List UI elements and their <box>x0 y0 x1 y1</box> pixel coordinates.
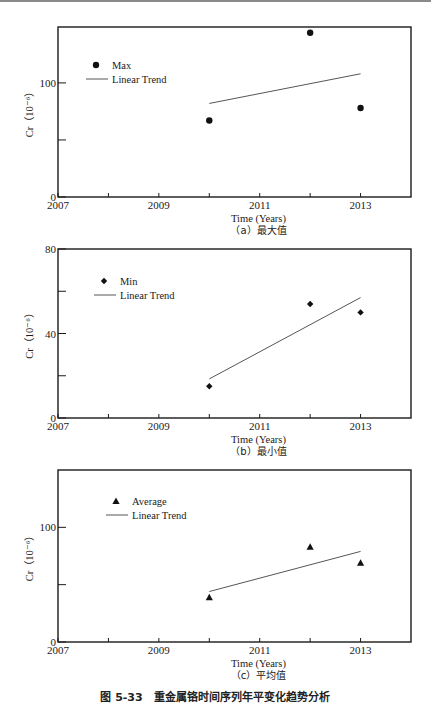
data-point-circle <box>206 117 212 123</box>
legend-label-trend: Linear Trend <box>120 290 175 301</box>
figure-canvas: 20072009201120130100Time (Years)Cr（10⁻⁶）… <box>0 0 431 703</box>
data-point-diamond <box>307 301 313 307</box>
legend: MinLinear Trend <box>94 276 175 301</box>
legend-marker-triangle-icon <box>112 497 119 503</box>
chart-panel-a: 20072009201120130100Time (Years)Cr（10⁻⁶）… <box>24 27 411 236</box>
linear-trend-line <box>209 551 360 591</box>
panel-caption: （c）平均值 <box>231 669 287 681</box>
y-tick-label: 40 <box>45 328 57 340</box>
x-tick-label: 2009 <box>148 199 171 211</box>
legend-label-trend: Linear Trend <box>112 74 167 85</box>
plot-frame <box>58 27 411 197</box>
y-tick-label: 0 <box>51 412 57 424</box>
panel-caption: （b）最小值 <box>230 445 286 457</box>
y-tick-label: 80 <box>45 243 57 255</box>
y-axis-title: Cr（10⁻⁶） <box>24 531 35 582</box>
legend-marker-diamond-icon <box>101 278 107 284</box>
y-axis-title: Cr（10⁻⁶） <box>24 308 35 359</box>
legend-label-series: Min <box>120 276 138 287</box>
x-tick-label: 2009 <box>148 644 171 656</box>
x-tick-label: 2009 <box>148 420 171 432</box>
y-tick-label: 0 <box>51 636 57 648</box>
linear-trend-line <box>209 74 360 104</box>
data-point-circle <box>357 105 363 111</box>
x-axis-title: Time (Years) <box>231 658 286 670</box>
x-tick-label: 2013 <box>350 420 373 432</box>
x-axis-title: Time (Years) <box>231 213 286 225</box>
x-tick-label: 2011 <box>249 420 271 432</box>
figure-caption: 图 5-33 重金属铬时间序列年平变化趋势分析 <box>100 690 329 703</box>
y-tick-label: 100 <box>40 77 57 89</box>
y-axis-title: Cr（10⁻⁶） <box>24 87 35 138</box>
plot-frame <box>58 470 411 642</box>
data-point-triangle <box>357 559 364 565</box>
data-point-diamond <box>206 383 212 389</box>
panel-caption: （a）最大值 <box>230 224 286 236</box>
plot-frame <box>58 249 411 418</box>
chart-panel-c: 20072009201120130100Time (Years)Cr（10⁻⁶）… <box>24 470 411 681</box>
data-point-circle <box>307 30 313 36</box>
x-tick-label: 2011 <box>249 644 271 656</box>
y-tick-label: 0 <box>51 191 57 203</box>
legend-marker-circle-icon <box>93 62 99 68</box>
legend-label-trend: Linear Trend <box>132 510 187 521</box>
legend-label-series: Average <box>132 496 167 507</box>
x-tick-label: 2011 <box>249 199 271 211</box>
y-tick-label: 100 <box>40 521 57 533</box>
legend: AverageLinear Trend <box>106 496 187 521</box>
legend-label-series: Max <box>112 60 132 71</box>
x-tick-label: 2013 <box>350 644 373 656</box>
x-tick-label: 2013 <box>350 199 373 211</box>
data-point-triangle <box>307 543 314 549</box>
data-point-triangle <box>206 594 213 600</box>
data-point-diamond <box>357 309 363 315</box>
linear-trend-line <box>209 298 360 379</box>
legend: MaxLinear Trend <box>86 60 167 85</box>
x-axis-title: Time (Years) <box>231 434 286 446</box>
chart-panel-b: 200720092011201304080Time (Years)Cr（10⁻⁶… <box>24 243 411 457</box>
